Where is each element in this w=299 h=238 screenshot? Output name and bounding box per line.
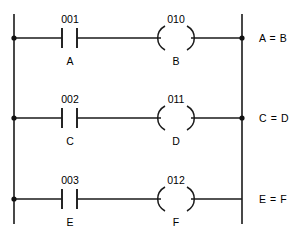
rung-1-left-junction-dot: [11, 35, 16, 40]
rung-3: 003 E 012 F E = F: [11, 174, 287, 228]
rung-1: 001 A 010 B A = B: [11, 13, 287, 67]
rung-3-equation: E = F: [259, 193, 287, 205]
rung-3-contact-address: 003: [61, 174, 79, 186]
rung-1-right-junction-dot: [239, 35, 244, 40]
rung-2-left-junction-dot: [11, 115, 16, 120]
rung-2-coil-address: 011: [168, 93, 185, 105]
rung-3-coil-name: F: [173, 216, 179, 228]
rung-1-coil-name: B: [172, 55, 179, 67]
rung-2-coil-name: D: [172, 135, 180, 147]
rung-1-contact-address: 001: [61, 13, 79, 25]
rung-2-right-junction-dot: [239, 115, 244, 120]
rung-3-left-junction-dot: [11, 196, 16, 201]
rung-1-contact-name: A: [66, 55, 73, 67]
rung-3-contact-name: E: [66, 216, 73, 228]
ladder-diagram-canvas: 001 A 010 B A = B 002 C 011 D C = D: [0, 0, 299, 238]
rung-2: 002 C 011 D C = D: [11, 93, 289, 147]
ladder-logic-diagram: 001 A 010 B A = B 002 C 011 D C = D: [0, 0, 299, 238]
rung-1-coil-address: 010: [167, 13, 185, 25]
rung-2-contact-name: C: [66, 135, 74, 147]
rung-3-coil-address: 012: [167, 174, 185, 186]
rung-1-equation: A = B: [259, 32, 287, 44]
rung-2-contact-address: 002: [61, 93, 79, 105]
rung-2-equation: C = D: [259, 112, 289, 124]
